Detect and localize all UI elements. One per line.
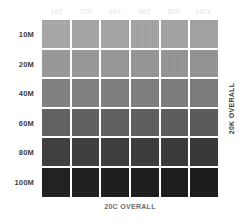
patch-cell: [161, 138, 189, 166]
patch-row: [42, 138, 218, 168]
patch-cell: [42, 20, 70, 48]
patch-cell: [131, 50, 159, 78]
patch-cell: [131, 138, 159, 166]
patch-cell: [101, 109, 129, 137]
patch-cell: [42, 109, 70, 137]
patch-row: [42, 109, 218, 139]
patch-cell: [101, 50, 129, 78]
patch-cell: [190, 138, 218, 166]
row-label: 20M: [0, 50, 38, 80]
patch-cell: [42, 50, 70, 78]
patch-cell: [72, 79, 100, 107]
patch-cell: [190, 20, 218, 48]
patch-cell: [131, 79, 159, 107]
column-header: 60Y: [130, 6, 159, 18]
patch-cell: [190, 79, 218, 107]
column-header: 80Y: [159, 6, 188, 18]
patch-cell: [101, 20, 129, 48]
row-label: 100M: [0, 168, 38, 198]
column-header: 10Y: [42, 6, 71, 18]
patch-cell: [161, 20, 189, 48]
column-header: 100Y: [189, 6, 218, 18]
y-axis-caption: 20K OVERALL: [219, 20, 245, 197]
patch-row: [42, 79, 218, 109]
patch-cell: [42, 79, 70, 107]
patch-cell: [42, 138, 70, 166]
patch-cell: [161, 79, 189, 107]
column-header-row: 10Y20Y40Y60Y80Y100Y: [42, 6, 218, 18]
patch-cell: [131, 20, 159, 48]
patch-cell: [72, 168, 100, 198]
patch-cell: [131, 109, 159, 137]
row-label-column: 10M20M40M60M80M100M: [0, 20, 38, 197]
patch-row: [42, 50, 218, 80]
row-label: 10M: [0, 20, 38, 50]
patch-cell: [72, 20, 100, 48]
patch-cell: [72, 109, 100, 137]
patch-grid: [42, 20, 218, 197]
patch-row: [42, 168, 218, 198]
patch-cell: [72, 50, 100, 78]
x-axis-caption: 20C OVERALL: [42, 203, 218, 210]
patch-cell: [101, 79, 129, 107]
patch-cell: [101, 168, 129, 198]
row-label: 60M: [0, 109, 38, 139]
row-label: 80M: [0, 138, 38, 168]
patch-cell: [131, 168, 159, 198]
patch-cell: [161, 168, 189, 198]
y-axis-caption-text: 20K OVERALL: [229, 83, 236, 135]
patch-cell: [190, 109, 218, 137]
patch-cell: [190, 168, 218, 198]
patch-cell: [42, 168, 70, 198]
color-patch-chart: 10Y20Y40Y60Y80Y100Y 10M20M40M60M80M100M …: [0, 0, 245, 223]
patch-cell: [190, 50, 218, 78]
row-label: 40M: [0, 79, 38, 109]
column-header: 40Y: [101, 6, 130, 18]
patch-row: [42, 20, 218, 50]
patch-cell: [101, 138, 129, 166]
patch-cell: [72, 138, 100, 166]
patch-cell: [161, 109, 189, 137]
column-header: 20Y: [71, 6, 100, 18]
patch-cell: [161, 50, 189, 78]
